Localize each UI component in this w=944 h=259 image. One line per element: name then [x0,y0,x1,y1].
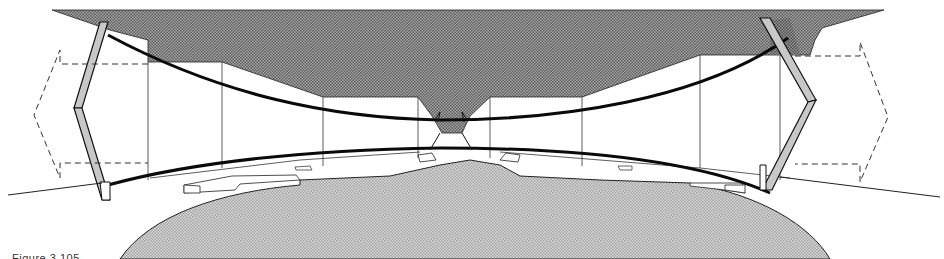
left-panel [74,22,110,200]
section-drawing [0,0,944,259]
roof-mass [52,10,884,133]
figure-caption: Figure 3.105 [12,252,80,259]
ground-line-left [8,183,102,195]
